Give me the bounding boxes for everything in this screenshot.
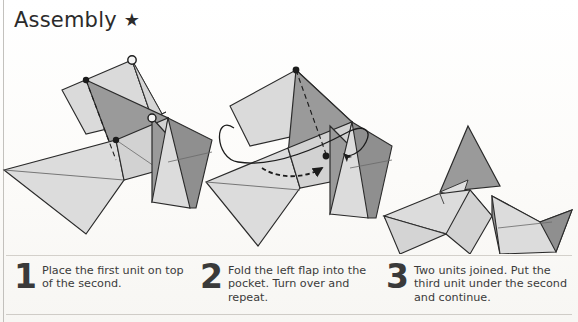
step-text-2: Fold the left flap into the pocket. Turn… xyxy=(228,264,375,304)
vertex-dot-marker xyxy=(113,137,119,143)
step-number-2: 2 xyxy=(200,262,223,292)
step-number-3: 3 xyxy=(386,262,409,292)
figure-step-3 xyxy=(384,126,572,254)
vertex-dot-marker xyxy=(323,153,330,160)
facet-dark xyxy=(440,126,500,192)
step-caption-3: 3 Two units joined. Put the third unit u… xyxy=(386,258,572,304)
facet-light xyxy=(4,140,124,234)
step-text-3: Two units joined. Put the third unit und… xyxy=(414,264,572,304)
step-caption-1: 1 Place the first unit on top of the sec… xyxy=(14,258,189,292)
vertex-circle-marker xyxy=(148,114,156,122)
step-number-1: 1 xyxy=(14,262,37,292)
vertex-circle-marker xyxy=(128,56,136,64)
figure-step-2 xyxy=(206,67,392,246)
step-text-1: Place the first unit on top of the secon… xyxy=(42,264,189,291)
vertex-dot-marker xyxy=(83,77,89,83)
step-caption-2: 2 Fold the left flap into the pocket. Tu… xyxy=(200,258,375,304)
figure-step-1 xyxy=(4,56,212,234)
caption-separator-top xyxy=(6,255,572,256)
assembly-diagrams xyxy=(0,22,578,254)
step-captions: 1 Place the first unit on top of the sec… xyxy=(0,258,578,320)
page-root: Assembly★ xyxy=(0,0,578,322)
vertex-dot-marker xyxy=(293,67,300,74)
